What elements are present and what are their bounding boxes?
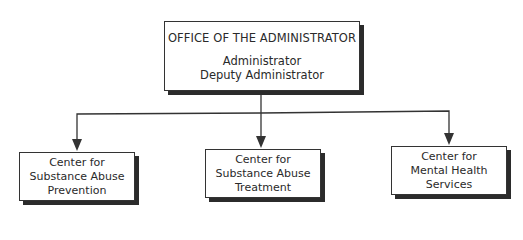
node-line: Substance Abuse [30, 170, 125, 184]
arrow-down-icon [256, 136, 266, 148]
node-line: Center for [421, 150, 477, 164]
office-of-administrator-box: OFFICE OF THE ADMINISTRATOR Administrato… [164, 21, 360, 91]
root-title: OFFICE OF THE ADMINISTRATOR [168, 31, 356, 45]
node-line: Services [426, 178, 472, 192]
arrow-down-icon [444, 133, 454, 145]
center-substance-abuse-treatment-box: Center for Substance Abuse Treatment [205, 149, 321, 198]
node-line: Mental Health [411, 164, 488, 178]
node-line: Substance Abuse [216, 167, 311, 181]
root-line-administrator: Administrator [223, 54, 301, 68]
node-line: Treatment [235, 181, 291, 195]
root-line-deputy: Deputy Administrator [200, 68, 324, 82]
node-line: Center for [49, 156, 105, 170]
node-line: Center for [235, 153, 291, 167]
center-mental-health-services-box: Center for Mental Health Services [391, 146, 507, 195]
center-substance-abuse-prevention-box: Center for Substance Abuse Prevention [19, 152, 135, 201]
arrow-down-icon [72, 139, 82, 151]
node-line: Prevention [48, 184, 107, 198]
